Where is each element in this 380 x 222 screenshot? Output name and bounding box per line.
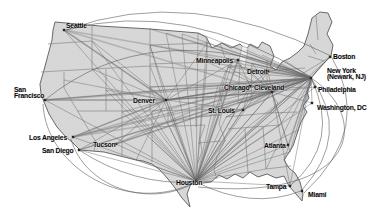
city-label-cleveland: Cleveland [254, 84, 284, 91]
city-label-chicago: Chicago [224, 84, 249, 92]
city-label-denver: Denver [133, 97, 155, 104]
city-label-seattle: Seattle [66, 22, 87, 29]
city-marker-san-diego [78, 149, 80, 151]
us-route-map: SeattleSanFranciscoLos AngelesSan DiegoT… [0, 0, 380, 222]
city-label-tampa: Tampa [266, 183, 287, 191]
city-marker-miami [301, 190, 303, 192]
city-label-houston: Houston [176, 179, 202, 186]
city-marker-los-angeles [72, 136, 74, 138]
city-marker-philadelphia [314, 86, 316, 88]
city-marker-minneapolis [237, 59, 239, 61]
city-label-minneapolis: Minneapolis [196, 57, 233, 65]
route-new-york-washington-dc [311, 78, 312, 103]
city-marker-seattle [63, 29, 65, 31]
route-map-frame: SeattleSanFranciscoLos AngelesSan DiegoT… [0, 0, 380, 222]
city-label-philadelphia: Philadelphia [318, 86, 356, 94]
city-label-washington-dc: Washington, DC [317, 104, 367, 112]
city-label-san-diego: San Diego [42, 147, 73, 155]
city-marker-washington-dc [311, 102, 313, 104]
city-label-st-louis: St. Louis [208, 107, 235, 114]
city-label-new-york: New York(Newark, NJ) [327, 67, 366, 81]
city-marker-st-louis [242, 109, 244, 111]
city-label-los-angeles: Los Angeles [29, 134, 67, 142]
city-label-atlanta: Atlanta [264, 142, 286, 149]
city-label-miami: Miami [308, 191, 327, 198]
city-label-tucson: Tucson [93, 141, 116, 148]
city-label-detroit: Detroit [247, 68, 268, 75]
city-marker-denver [165, 99, 167, 101]
city-label-boston: Boston [333, 53, 355, 60]
city-marker-new-york [310, 77, 312, 79]
city-marker-atlanta [287, 144, 289, 146]
city-marker-tampa [289, 185, 291, 187]
city-marker-cleveland [271, 91, 273, 93]
city-marker-boston [329, 56, 331, 58]
city-label-san-francisco: SanFrancisco [14, 86, 44, 99]
